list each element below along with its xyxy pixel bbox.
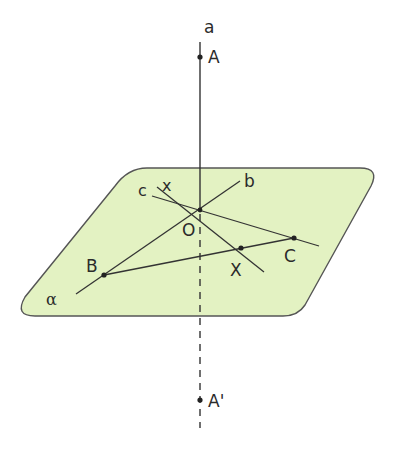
label-plane-alpha: α xyxy=(46,290,57,309)
point-A-prime xyxy=(197,397,202,402)
label-line-a: a xyxy=(204,17,214,37)
point-O xyxy=(198,208,203,213)
label-point-C: C xyxy=(284,246,296,266)
point-C xyxy=(291,235,296,240)
label-point-O: O xyxy=(182,220,195,240)
point-B xyxy=(101,272,106,277)
label-point-B: B xyxy=(86,256,98,276)
plane-alpha xyxy=(21,168,374,316)
label-point-A-prime: A' xyxy=(208,391,224,411)
label-point-A: A xyxy=(208,47,220,67)
point-X xyxy=(238,245,243,250)
label-line-c: c xyxy=(138,181,147,200)
label-line-x: x xyxy=(162,176,171,195)
geometry-diagram: a A b c x O B C X α A' xyxy=(0,0,398,449)
label-point-X: X xyxy=(230,260,242,280)
label-line-b: b xyxy=(244,171,255,191)
point-A xyxy=(197,54,202,59)
